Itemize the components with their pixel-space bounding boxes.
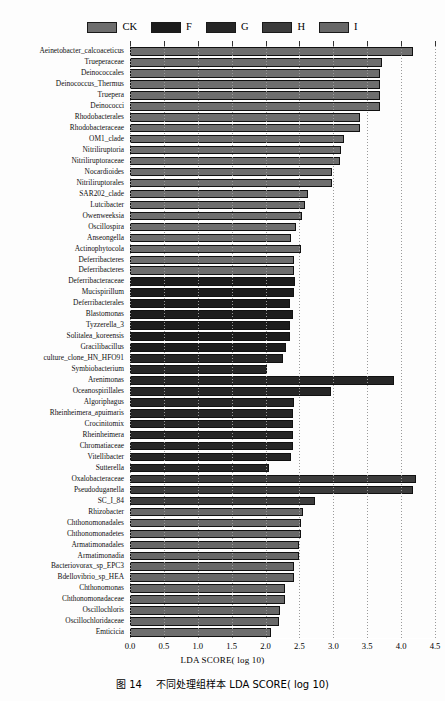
x-axis-tick-labels: 0.00.51.01.52.02.53.03.54.04.5 [130,641,435,653]
y-label-rhizobacter: Rhizobacter [88,508,124,517]
x-tick-3.5 [367,41,368,46]
x-tick-label-1.0: 1.0 [192,641,203,651]
gridline-2.0 [266,46,267,638]
bar-row [130,530,435,539]
y-label-pseudoduganella: Pseudoduganella [74,486,124,495]
legend-item-i: I [319,22,358,33]
bar-sc_i_84 [130,497,315,506]
bar-row [130,475,435,484]
bar-rhizobacter [130,508,303,517]
bar-row [130,201,435,210]
bar-row [130,47,435,56]
bar-row [130,595,435,604]
y-label-gracilibacillus: Gracilibacillus [80,343,124,352]
bar-lutcibacter [130,201,305,210]
bar-row [130,562,435,571]
x-tick-label-3.5: 3.5 [362,641,373,651]
bar-deferribacteres [130,266,294,275]
chart-legend: CKFGHI [0,18,445,36]
bar-truepera [130,91,380,100]
bar-aeinetobacter_calcoaceticus [130,47,413,56]
bar-culture_clone_hn_hfo91 [130,354,283,363]
x-tick-label-2.5: 2.5 [294,641,305,651]
y-label-anseongella: Anseongella [87,234,124,243]
x-tick-0.0 [130,41,131,46]
caption-figure-number: 图 14 [116,679,142,690]
bar-chromatiaceae [130,442,293,451]
bar-chthonomonas [130,584,285,593]
bar-row [130,277,435,286]
bar-blastomonas [130,310,293,319]
x-tick-1.5 [232,41,233,46]
bar-oscillochloris [130,606,280,615]
x-axis-line [130,638,435,639]
x-tick-2.5 [299,41,300,46]
bar-bdellovibrio_sp_hea [130,573,294,582]
legend-item-f: F [151,22,192,33]
legend-item-g: G [206,22,249,33]
legend-label-f: F [186,22,192,33]
bar-row [130,168,435,177]
bar-chthonomonadetes [130,530,301,539]
gridline-4.5 [435,46,436,638]
y-label-sc_i_84: SC_I_84 [98,497,124,506]
y-label-lutcibacter: Lutcibacter [90,201,124,210]
x-tick-label-0.5: 0.5 [159,641,170,651]
y-label-blastomonas: Blastomonas [86,310,124,319]
bar-row [130,135,435,144]
y-label-owenweeksia: Owenweeksia [83,212,124,221]
bar-deinococcus_thermus [130,80,380,89]
y-label-rheinheimera: Rheinheimera [83,431,124,440]
y-label-oxalobacteraceae: Oxalobacteraceae [71,475,124,484]
gridline-1.0 [198,46,199,638]
legend-label-i: I [354,22,358,33]
bar-row [130,256,435,265]
bar-actinophytocola [130,245,301,254]
bar-row [130,628,435,637]
bar-row [130,453,435,462]
bar-row [130,497,435,506]
bar-oceanospirillales [130,387,331,396]
bar-row [130,124,435,133]
y-label-oceanospirillales: Oceanospirillales [73,387,124,396]
x-tick-1.0 [198,41,199,46]
y-label-mucispirillum: Mucispirillum [82,288,124,297]
y-label-om1_clade: OM1_clade [89,135,124,144]
bar-armatimonadales [130,541,299,550]
bar-row [130,146,435,155]
y-label-rhodobacterales: Rhodobacterales [75,113,124,122]
gridline-1.5 [232,46,233,638]
x-tick-4.5 [435,41,436,46]
legend-item-ck: CK [87,22,137,33]
bar-owenweeksia [130,212,302,221]
bar-row [130,365,435,374]
y-label-armatimonadales: Armatimonadales [71,541,124,550]
bar-om1_clade [130,135,344,144]
bar-row [130,464,435,473]
plot-area [130,46,435,638]
bar-row [130,266,435,275]
bar-row [130,584,435,593]
bar-rows [130,46,435,638]
y-label-nitriliruptoria: Nitriliruptoria [83,146,124,155]
bar-deinococcales [130,69,380,78]
bar-trueperaceae [130,58,382,67]
figure-caption: 图 14 不同处理组样本 LDA SCORE( log 10) [0,676,445,691]
figure-container: CKFGHI Aeinetobacter_calcoaceticusTruepe… [0,0,445,701]
legend-swatch-ck [87,22,117,33]
bar-row [130,157,435,166]
x-tick-label-4.5: 4.5 [430,641,441,651]
y-label-rhodobacteraceae: Rhodobacteraceae [70,124,124,133]
gridline-4.0 [401,46,402,638]
bar-row [130,541,435,550]
legend-label-ck: CK [122,22,137,33]
gridline-3.5 [367,46,368,638]
caption-text: 不同处理组样本 LDA SCORE( log 10) [156,679,329,690]
x-tick-2.0 [266,41,267,46]
bar-row [130,321,435,330]
bar-rheinheimera [130,431,293,440]
bar-row [130,376,435,385]
bar-row [130,617,435,626]
y-label-sutterella: Sutterella [96,464,124,473]
y-label-solitalea_koreensis: Solitalea_koreensis [67,332,124,341]
